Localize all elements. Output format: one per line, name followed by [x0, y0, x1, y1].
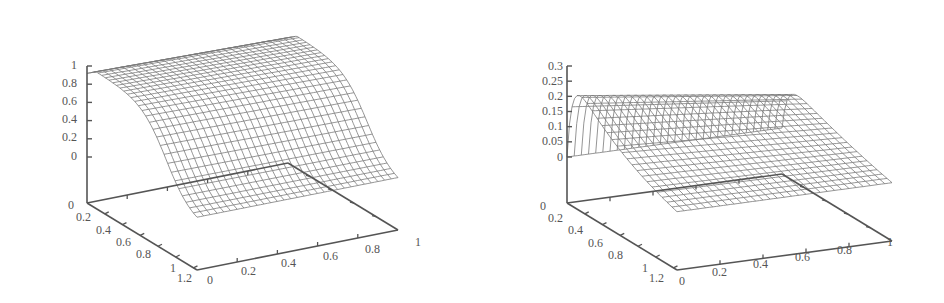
z-tick-label: 0.8 — [37, 77, 77, 89]
y-tick-label: 0.2 — [548, 212, 563, 224]
y-tick-label: 0.4 — [568, 224, 583, 236]
y-tick-label: 1 — [642, 262, 648, 274]
x-tick-label: 0 — [679, 275, 685, 287]
wireframe-mesh-left — [87, 36, 398, 217]
x-tick-label: 1 — [887, 236, 893, 248]
y-tick-label: 0.8 — [608, 249, 623, 261]
y-tick-label: 0 — [540, 200, 546, 212]
surface-plot-left: 1 0.8 0.6 0.4 0.2 0 0 0.2 0.4 0.6 0.8 1 … — [0, 0, 472, 303]
y-tick-label: 1.2 — [649, 272, 664, 284]
x-tick-label: 0.2 — [712, 266, 727, 278]
x-tick-label: 1 — [415, 236, 421, 248]
x-tick-label: 0.6 — [323, 250, 338, 262]
y-tick-label: 0.6 — [116, 236, 131, 248]
y-tick-label: 0.2 — [76, 211, 91, 223]
z-tick-label: 0.25 — [523, 75, 563, 87]
z-tick-label: 0.1 — [523, 120, 563, 132]
z-tick-label: 0 — [37, 150, 77, 162]
y-tick-label: 0 — [68, 199, 74, 211]
surface-plot-right: 0.3 0.25 0.2 0.15 0.1 0.05 0 0 0.2 0.4 0… — [472, 0, 944, 303]
y-tick-label: 1.2 — [177, 272, 192, 284]
z-tick-label: 0.05 — [523, 135, 563, 147]
z-tick-label: 0.2 — [523, 90, 563, 102]
y-tick-label: 0.8 — [136, 248, 151, 260]
wireframe-mesh-right — [567, 94, 892, 211]
x-tick-label: 0.8 — [837, 244, 852, 256]
x-tick-label: 0.6 — [795, 251, 810, 263]
z-tick-label: 0.2 — [37, 131, 77, 143]
z-tick-label: 1 — [37, 59, 77, 71]
y-tick-label: 0.4 — [96, 224, 111, 236]
y-tick-label: 1 — [170, 262, 176, 274]
z-tick-label: 0.3 — [523, 60, 563, 72]
x-tick-label: 0 — [207, 274, 213, 286]
x-tick-label: 0.2 — [241, 265, 256, 277]
x-tick-label: 0.8 — [365, 243, 380, 255]
x-tick-label: 0.4 — [281, 257, 296, 269]
z-tick-label: 0.15 — [523, 105, 563, 117]
z-tick-label: 0.4 — [37, 113, 77, 125]
x-tick-label: 0.4 — [753, 258, 768, 270]
z-tick-label: 0.6 — [37, 95, 77, 107]
z-tick-label: 0 — [523, 151, 563, 163]
y-tick-label: 0.6 — [588, 237, 603, 249]
